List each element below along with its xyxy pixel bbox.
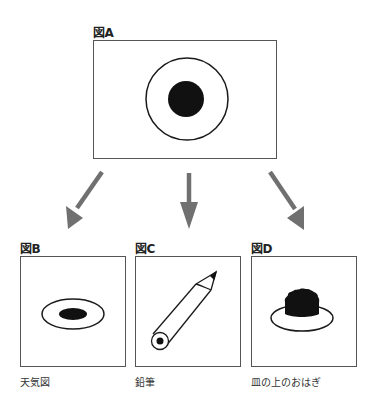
- diagram-drawings: [0, 0, 374, 403]
- arrow-a-to-c-icon: [180, 173, 198, 229]
- arrow-a-to-b-icon: [66, 172, 102, 229]
- figure-a-drawing: [146, 58, 228, 140]
- figure-b-drawing: [42, 299, 104, 329]
- arrows: [66, 172, 304, 230]
- figure-c-drawing: [152, 272, 217, 350]
- arrow-a-to-d-icon: [270, 172, 304, 230]
- figure-d-drawing: [271, 289, 333, 331]
